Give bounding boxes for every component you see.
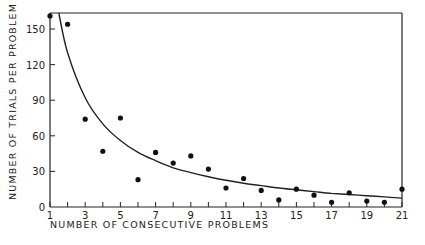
data-points (47, 13, 404, 205)
plot-frame (50, 13, 402, 207)
data-point (382, 200, 387, 205)
data-point (241, 176, 246, 181)
data-point (329, 200, 334, 205)
chart: 13579111315171921 0306090120150 NUMBER O… (0, 0, 425, 245)
y-axis-ticks: 0306090120150 (26, 24, 55, 213)
data-point (347, 190, 352, 195)
data-point (294, 187, 299, 192)
data-point (399, 187, 404, 192)
data-point (206, 166, 211, 171)
y-tick-label: 30 (32, 166, 45, 177)
data-point (311, 193, 316, 198)
x-tick-label: 21 (396, 210, 409, 221)
data-point (276, 197, 281, 202)
data-point (100, 149, 105, 154)
x-tick-label: 19 (360, 210, 373, 221)
data-point (83, 117, 88, 122)
data-point (135, 177, 140, 182)
x-tick-label: 17 (325, 210, 338, 221)
y-axis-title: NUMBER OF TRIALS PER PROBLEM (7, 3, 18, 200)
data-point (223, 185, 228, 190)
data-point (47, 13, 52, 18)
fitted-curve (59, 13, 402, 198)
y-tick-label: 60 (32, 131, 45, 142)
x-tick-label: 15 (290, 210, 303, 221)
x-axis-title: NUMBER OF CONSECUTIVE PROBLEMS (50, 219, 269, 230)
data-point (153, 150, 158, 155)
data-point (118, 115, 123, 120)
data-point (188, 153, 193, 158)
y-tick-label: 0 (39, 202, 45, 213)
y-tick-label: 120 (26, 60, 45, 71)
data-point (259, 188, 264, 193)
y-tick-label: 150 (26, 24, 45, 35)
data-point (65, 22, 70, 27)
data-point (364, 198, 369, 203)
data-point (171, 160, 176, 165)
y-tick-label: 90 (32, 95, 45, 106)
